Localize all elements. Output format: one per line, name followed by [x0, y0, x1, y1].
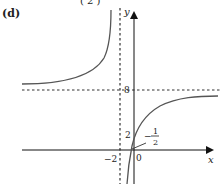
- graph-figure: ( 2 ) (d) y x 0 8 −2 2 − 1 2: [0, 0, 224, 184]
- origin-label: 0: [136, 153, 142, 163]
- part-label: (d): [2, 7, 20, 20]
- fraction-sign: −: [144, 131, 152, 141]
- x-axis-label: x: [208, 154, 214, 165]
- fraction-numerator: 1: [153, 127, 158, 136]
- vertical-asymptote-label: −2: [104, 154, 117, 164]
- curve-right-branch: [127, 96, 218, 184]
- x-intercept-label: − 1 2: [144, 127, 159, 147]
- y-intercept-label: 2: [125, 130, 131, 140]
- curve-left-branch: [22, 10, 111, 84]
- y-axis-label: y: [123, 6, 130, 17]
- formula-fragment: ( 2 ): [80, 0, 101, 6]
- fraction-denominator: 2: [153, 138, 158, 147]
- horizontal-asymptote-label: 8: [124, 85, 130, 95]
